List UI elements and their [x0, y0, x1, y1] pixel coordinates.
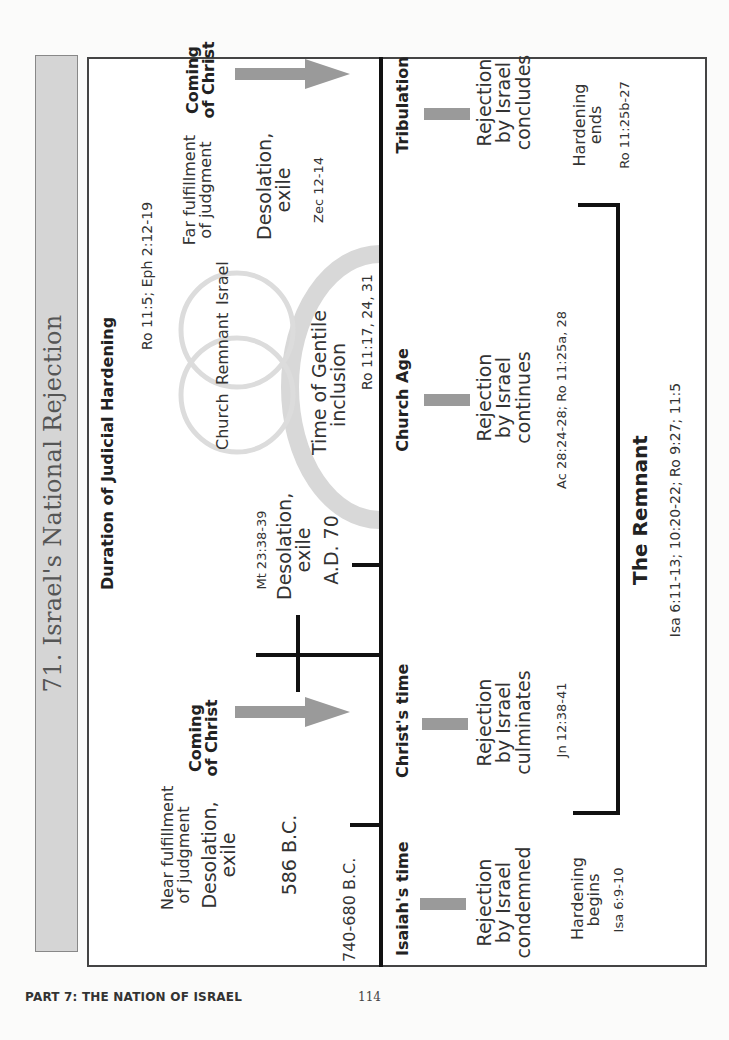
near-date: 586 B.C. — [280, 800, 299, 910]
near-desolation-label: Desolation,exile — [200, 800, 239, 910]
ad70-date: A.D. 70 — [322, 500, 341, 600]
period-marker — [422, 718, 468, 730]
church-ring-icon — [181, 338, 293, 452]
period-heading-christ: Christ's time — [395, 668, 411, 778]
arrow-right-icon — [235, 59, 350, 89]
israel-ring-icon — [181, 273, 293, 387]
far-ref: Zec 12-14 — [312, 140, 325, 240]
gentile-ref: Ro 11:17, 24, 31 — [360, 280, 374, 390]
hardening-begins-ref: Isa 6:9-10 — [612, 860, 625, 940]
period-text-tribulation: Rejectionby Israelconcludes — [475, 45, 533, 160]
period-text-christ: Rejectionby Israelculminates — [475, 665, 533, 780]
hardening-begins: Hardeningbegins — [570, 860, 603, 940]
period-text-church: Rejectionby Israelcontinues — [475, 340, 533, 455]
isaiah-date: 740-680 B.C. — [342, 862, 358, 962]
arrow-right-icon — [235, 697, 350, 727]
coming-of-christ-2: Comingof Christ — [185, 40, 218, 120]
period-ref-church: Ac 28:24-28; Ro 11:25a, 28 — [555, 280, 568, 520]
israel-label: Israel — [215, 261, 231, 305]
remnant-ref: Isa 6:11-13; 10:20-22; Ro 9:27; 11:5 — [668, 320, 682, 700]
ad70-desolation: Desolation,exile — [275, 500, 314, 600]
tick-586bc — [350, 823, 380, 827]
period-marker — [424, 108, 470, 120]
cross-icon — [256, 653, 380, 657]
cross-icon-bar — [296, 615, 300, 692]
gentile-inclusion-label: Time of Gentileinclusion — [310, 315, 349, 455]
period-text-isaiah: Rejectionby Israelcondemned — [475, 845, 533, 960]
timeline-axis — [379, 57, 383, 967]
duration-heading: Duration of Judicial Hardening — [100, 317, 116, 590]
remnant-heading: The Remnant — [630, 410, 650, 610]
duration-ref: Ro 11:5; Eph 2:12-19 — [140, 202, 154, 350]
near-fulfillment-label: Near fulfillmentof judgment — [160, 800, 193, 910]
remnant-label: Remnant — [215, 313, 231, 385]
remnant-bracket — [616, 203, 620, 815]
period-marker — [424, 394, 470, 406]
rotated-chart-page: 71. Israel's National Rejection Du — [0, 0, 729, 1040]
hardening-ends: Hardeningends — [572, 80, 605, 170]
far-fulfillment-label: Far fulfillmentof judgment — [182, 125, 215, 255]
hardening-ends-ref: Ro 11:25b-27 — [618, 65, 631, 185]
period-heading-church: Church Age — [395, 345, 411, 455]
ad70-ref: Mt 23:38-39 — [255, 500, 268, 600]
period-heading-isaiah: Isaiah's time — [395, 846, 411, 956]
period-ref-christ: Jn 12:38-41 — [555, 675, 568, 765]
far-desolation-label: Desolation,exile — [255, 140, 294, 240]
footer-section: PART 7: THE NATION OF ISRAEL — [25, 990, 242, 1004]
church-label: Church — [215, 393, 231, 450]
period-heading-tribulation: Tribulation — [395, 50, 411, 160]
tick-ad70 — [352, 563, 380, 567]
page-number: 114 — [358, 990, 381, 1004]
coming-of-christ-1: Comingof Christ — [188, 698, 221, 778]
period-marker — [420, 898, 466, 910]
